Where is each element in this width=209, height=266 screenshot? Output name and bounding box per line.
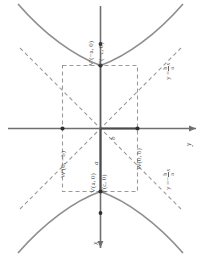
asymptote-positive-lhs: y = (164, 71, 172, 80)
label-focus-right: F(c, 0) (101, 174, 108, 193)
hyperbola-figure: F'(−c, 0) V'(−a, 0) V(a, 0) F(c, 0) W'(0… (0, 0, 209, 266)
point-covertex-neg (60, 126, 64, 130)
asymptote-negative-sign: − (164, 177, 172, 181)
asymptote-negative-variable: x (164, 169, 172, 172)
asymptote-negative-numerator: b (162, 172, 169, 177)
asymptote-positive-numerator: b (162, 66, 169, 71)
label-semi-major: a (93, 162, 100, 166)
label-asymptote-positive: y =bax (162, 63, 175, 80)
label-semi-minor: b (110, 137, 117, 141)
point-focus-right (99, 211, 103, 215)
label-covertex-neg: W'(0, −b) (60, 151, 67, 178)
label-covertex-pos: W(0, b) (136, 148, 143, 170)
label-vertex-left: V'(−a, 0) (88, 41, 95, 66)
label-asymptote-negative: y =−bax (162, 169, 175, 190)
asymptote-negative-fraction: ba (162, 172, 175, 177)
y-axis-arrowhead (189, 126, 196, 132)
point-covertex-pos (135, 126, 139, 130)
label-focus-left: F'(−c, 0) (98, 42, 105, 66)
label-x-axis: x (92, 242, 100, 245)
label-y-axis: y (185, 143, 193, 146)
asymptote-positive-variable: x (164, 63, 172, 66)
asymptote-positive-fraction: ba (162, 66, 175, 71)
label-vertex-right: V(a, 0) (90, 173, 97, 193)
asymptote-positive-denominator: a (169, 66, 175, 71)
asymptote-negative-denominator: a (169, 172, 175, 177)
figure-canvas (0, 0, 209, 266)
asymptote-negative-lhs: y = (164, 181, 172, 190)
